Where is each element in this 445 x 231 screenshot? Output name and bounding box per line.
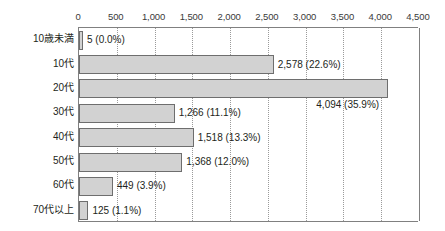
bar <box>79 177 113 196</box>
category-axis-label-column: 10歳未満10代20代30代40代50代60代70代以上 <box>0 27 78 222</box>
bar-value-label: 125 (1.1%) <box>92 205 141 217</box>
x-axis-tick-label: 500 <box>108 10 124 24</box>
x-axis-tick-label: 3,000 <box>293 10 316 24</box>
category-label-text: 10歳未満 <box>33 33 74 45</box>
category-label: 20代 <box>53 82 74 94</box>
bar-value-label: 1,368 (12.0%) <box>186 156 249 168</box>
bar-value-label: 449 (3.9%) <box>117 180 166 192</box>
bar <box>79 153 182 172</box>
bar <box>79 55 274 74</box>
x-axis-tick-label: 1,500 <box>180 10 203 24</box>
category-label-text: 40代 <box>53 131 74 143</box>
category-label-text: 30代 <box>53 106 74 118</box>
category-label-text: 50代 <box>53 155 74 167</box>
bar-value-label: 4,094 (35.9%) <box>316 99 379 111</box>
x-axis-tick-label: 4,500 <box>406 10 429 24</box>
bar <box>79 31 83 50</box>
category-label: 40代 <box>53 131 74 143</box>
gridline <box>306 28 307 221</box>
category-label: 30代 <box>53 106 74 118</box>
x-axis-tick-label: 0 <box>75 10 80 24</box>
gridline <box>343 28 344 221</box>
x-axis-tick-label: 3,500 <box>331 10 354 24</box>
bar-value-label: 1,518 (13.3%) <box>198 132 261 144</box>
category-label-text: 70代以上 <box>33 204 74 216</box>
bar-value-label: 2,578 (22.6%) <box>278 59 341 71</box>
bar <box>79 201 88 220</box>
x-axis-tick-label: 4,000 <box>369 10 392 24</box>
x-axis-tick-label: 2,500 <box>255 10 278 24</box>
x-axis-tick-label-row: 05001,0001,5002,0002,5003,0003,5004,0004… <box>0 10 445 24</box>
category-label-text: 20代 <box>53 82 74 94</box>
bar-value-label: 5 (0.0%) <box>87 34 125 46</box>
x-axis-tick-label: 2,000 <box>217 10 240 24</box>
bar-value-label: 1,266 (11.1%) <box>179 107 241 119</box>
category-label: 50代 <box>53 155 74 167</box>
category-label: 60代 <box>53 179 74 191</box>
bar <box>79 104 175 123</box>
bar <box>79 79 388 98</box>
x-axis-tick-label: 1,000 <box>142 10 165 24</box>
bar <box>79 128 194 147</box>
plot-area: 5 (0.0%)2,578 (22.6%)4,094 (35.9%)1,266 … <box>78 27 418 222</box>
category-label: 10代 <box>53 58 74 70</box>
category-label: 70代以上 <box>33 204 74 216</box>
category-label-text: 60代 <box>53 179 74 191</box>
horizontal-bar-chart: 05001,0001,5002,0002,5003,0003,5004,0004… <box>0 0 445 231</box>
gridline <box>381 28 382 221</box>
category-label-text: 10代 <box>53 58 74 70</box>
category-label: 10歳未満 <box>33 33 74 45</box>
gridline <box>419 28 420 221</box>
